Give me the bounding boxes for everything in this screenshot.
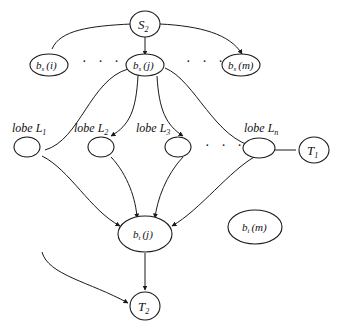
edge-left-t2 bbox=[42, 252, 128, 303]
node-t2: T2 bbox=[130, 292, 160, 320]
edge-l1-btj bbox=[42, 156, 120, 226]
node-bs-j: bs(j) bbox=[126, 54, 164, 76]
edge-s2-bsi bbox=[52, 24, 131, 49]
edge-l2-btj bbox=[111, 157, 137, 218]
svg-text:bs(j): bs(j) bbox=[133, 59, 154, 73]
svg-text:lobe L2: lobe L2 bbox=[74, 121, 108, 137]
edge-bsj-l1 bbox=[45, 69, 128, 150]
svg-text:lobe L3: lobe L3 bbox=[136, 121, 170, 137]
svg-text:bt(m): bt(m) bbox=[242, 221, 267, 235]
svg-text:bs(m): bs(m) bbox=[228, 59, 254, 73]
node-bt-m: bt(m) bbox=[228, 210, 282, 244]
edge-bsj-l2 bbox=[111, 76, 138, 136]
svg-text:lobe Ln: lobe Ln bbox=[244, 121, 278, 137]
edge-s2-bsm bbox=[160, 24, 242, 54]
svg-text:lobe L1: lobe L1 bbox=[12, 121, 46, 137]
svg-text:bt(j): bt(j) bbox=[133, 228, 153, 242]
node-bs-m: bs(m) bbox=[222, 54, 260, 76]
node-s2: S2 bbox=[130, 11, 160, 37]
edge-l3-btj bbox=[155, 157, 183, 218]
node-lobe-ln: lobe Ln bbox=[243, 121, 278, 158]
node-t1: T1 bbox=[299, 137, 329, 163]
node-bt-j: bt(j) bbox=[118, 216, 172, 252]
node-lobe-l2: lobe L2 bbox=[74, 121, 114, 157]
node-lobe-l1: lobe L1 bbox=[12, 121, 46, 157]
svg-text:bs(i): bs(i) bbox=[36, 59, 57, 73]
node-lobe-l3: lobe L3 bbox=[136, 121, 191, 157]
ellipsis-left: · · · bbox=[82, 54, 123, 69]
node-bs-i: bs(i) bbox=[30, 54, 68, 76]
ellipsis-right: · · · bbox=[186, 54, 227, 69]
hmm-state-diagram: S2 bs(i) · · · bs(j) · · · bs(m) lobe L1… bbox=[0, 0, 339, 330]
ellipsis-lobes: · · · bbox=[205, 138, 246, 153]
edge-bsj-ln bbox=[165, 68, 256, 147]
